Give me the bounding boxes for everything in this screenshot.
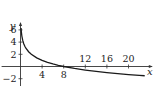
x-axis-label: x [147, 66, 153, 77]
y-tick-label: 6 [10, 24, 16, 35]
x-tick-label: 16 [101, 53, 113, 64]
y-axis-arrow [19, 22, 22, 26]
y-tick-label: 2 [10, 49, 16, 60]
x-tick-label: 4 [39, 69, 45, 80]
x-tick-label: 20 [122, 53, 134, 64]
y-tick-label: −2 [2, 73, 16, 84]
chart: xy48121620−2246 [0, 0, 153, 92]
x-tick-label: 8 [61, 69, 67, 80]
x-tick-label: 12 [79, 53, 91, 64]
y-tick-label: 4 [10, 36, 16, 47]
